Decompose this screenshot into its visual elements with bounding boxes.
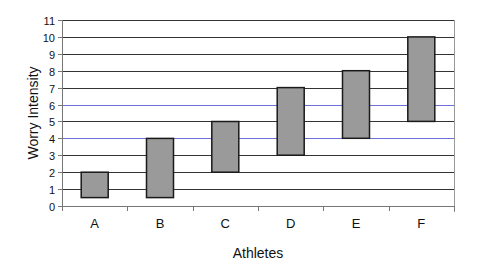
x-axis: ABCDEF — [62, 20, 455, 231]
y-tick-label: 9 — [49, 49, 55, 61]
y-axis-title: Worry Intensity — [25, 66, 41, 159]
range-bar-b — [147, 138, 174, 197]
range-bar-d — [277, 88, 304, 156]
range-bar-a — [81, 172, 108, 197]
y-axis-ticks: 01234567891011 — [43, 15, 62, 213]
x-tick-label: E — [352, 216, 361, 231]
y-tick-label: 10 — [43, 32, 55, 44]
range-bar-e — [343, 71, 370, 139]
y-tick-label: 6 — [49, 100, 55, 112]
x-tick-label: D — [286, 216, 295, 231]
y-tick-label: 3 — [49, 150, 55, 162]
y-tick-label: 11 — [44, 15, 55, 27]
range-bar-c — [212, 122, 239, 173]
y-tick-label: 5 — [49, 116, 55, 128]
x-tick-label: A — [90, 216, 99, 231]
x-tick-label: B — [156, 216, 165, 231]
x-axis-title: Athletes — [233, 245, 284, 261]
y-tick-label: 8 — [49, 66, 55, 78]
bars — [81, 37, 435, 198]
range-bar-f — [408, 37, 435, 122]
y-tick-label: 0 — [49, 201, 55, 213]
range-bar-chart: 01234567891011 ABCDEF Worry Intensity At… — [0, 0, 478, 270]
y-tick-label: 1 — [49, 184, 55, 196]
y-tick-label: 2 — [49, 167, 55, 179]
y-tick-label: 7 — [49, 83, 55, 95]
x-tick-label: C — [221, 216, 230, 231]
gridlines — [62, 21, 454, 190]
y-tick-label: 4 — [49, 133, 55, 145]
x-tick-label: F — [417, 216, 425, 231]
